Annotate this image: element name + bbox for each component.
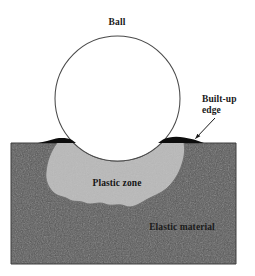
- indentation-diagram: Ball Built-up edge Plastic zone Elastic …: [0, 0, 255, 276]
- ball-label: Ball: [109, 17, 126, 27]
- elastic-material-label: Elastic material: [149, 222, 215, 232]
- plastic-zone-label: Plastic zone: [93, 178, 142, 188]
- leader-line: [196, 118, 216, 139]
- built-up-edge-label-line2: edge: [202, 105, 221, 115]
- built-up-edge-leader: [196, 118, 216, 139]
- diagram-canvas: Ball Built-up edge Plastic zone Elastic …: [0, 0, 255, 276]
- built-up-edge-label-line1: Built-up: [202, 94, 237, 104]
